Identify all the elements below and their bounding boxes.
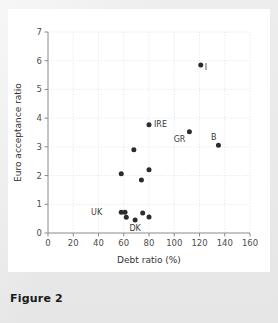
x-tick-label: 20 [68, 238, 79, 248]
gridlines [48, 32, 250, 233]
scatter-plot-svg: 020406080100120140160 01234567 Debt rati… [8, 9, 270, 272]
x-tick-label: 120 [191, 238, 207, 248]
x-axis-title: Debt ratio (%) [117, 255, 181, 265]
data-point [123, 210, 128, 215]
data-point-label: GR [174, 135, 186, 144]
data-point [131, 147, 136, 152]
y-axis-ticks: 01234567 [37, 27, 48, 238]
data-point-label: B [211, 133, 217, 142]
x-tick-label: 60 [118, 238, 129, 248]
x-tick-label: 40 [93, 238, 104, 248]
x-tick-label: 0 [45, 238, 50, 248]
data-point-label: I [205, 63, 207, 72]
data-point [198, 63, 203, 68]
data-point-label: IRE [154, 120, 167, 129]
y-tick-label: 6 [37, 56, 42, 66]
x-tick-label: 160 [242, 238, 258, 248]
x-tick-label: 140 [217, 238, 233, 248]
figure-caption: Figure 2 [10, 292, 63, 305]
data-point [140, 210, 145, 215]
data-point [187, 129, 192, 134]
data-points: IIREGRBUKDK [91, 63, 221, 234]
figure-card: 020406080100120140160 01234567 Debt rati… [8, 9, 270, 272]
data-point [133, 218, 138, 223]
y-tick-label: 2 [37, 171, 42, 181]
data-point [147, 214, 152, 219]
x-tick-label: 80 [144, 238, 155, 248]
y-axis-title: Euro acceptance ratio [13, 83, 23, 182]
data-point [124, 215, 129, 220]
scatter-plot: 020406080100120140160 01234567 Debt rati… [8, 9, 270, 272]
data-point [139, 177, 144, 182]
data-point [216, 143, 221, 148]
data-point-label: UK [91, 208, 103, 217]
y-tick-label: 5 [37, 84, 42, 94]
y-tick-label: 0 [37, 228, 42, 238]
data-point [147, 122, 152, 127]
y-tick-label: 7 [37, 27, 42, 37]
y-tick-label: 4 [37, 113, 42, 123]
y-tick-label: 3 [37, 142, 42, 152]
x-axis-ticks: 020406080100120140160 [45, 233, 258, 248]
data-point [147, 167, 152, 172]
x-tick-label: 100 [166, 238, 182, 248]
data-point-label: DK [129, 224, 141, 233]
data-point [119, 171, 124, 176]
y-tick-label: 1 [37, 199, 42, 209]
